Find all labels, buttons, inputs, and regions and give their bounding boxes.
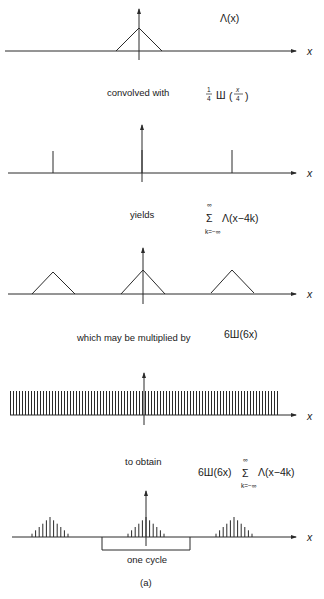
svg-text:4: 4 [207, 95, 211, 102]
triangle [211, 270, 254, 293]
panel-comb6: x [10, 373, 313, 425]
x-axis-label: x [306, 45, 313, 57]
svg-text:Λ(x−4k): Λ(x−4k) [258, 466, 294, 478]
panel-periodic-triangles: x [8, 248, 313, 304]
connector-multiplied-by: which may be multiplied by [76, 332, 191, 343]
x-axis-label: x [306, 167, 313, 179]
comb6-label: 6Ш(6x) [224, 328, 258, 340]
svg-text:Σ: Σ [206, 212, 213, 224]
connector-convolved-with: convolved with [107, 87, 169, 98]
svg-text:Σ: Σ [242, 467, 249, 479]
one-cycle-label: one cycle [127, 554, 167, 565]
sha-symbol: Ш [216, 89, 226, 101]
connector-to-obtain: to obtain [125, 456, 161, 467]
triangle-label: Λ(x) [220, 12, 239, 24]
svg-text:1: 1 [207, 86, 211, 93]
x-axis-label: x [306, 288, 313, 300]
svg-text:4: 4 [236, 95, 240, 102]
svg-text:Λ(x−4k): Λ(x−4k) [222, 212, 258, 224]
svg-text:): ) [245, 90, 249, 102]
svg-text:∞: ∞ [207, 201, 212, 208]
svg-text:∞: ∞ [243, 456, 248, 463]
panel-sampled: one cycle x [12, 491, 313, 565]
svg-text:x: x [235, 86, 240, 93]
svg-text:(: ( [229, 90, 233, 102]
connector-yields: yields [130, 209, 155, 220]
svg-text:6Ш(6x): 6Ш(6x) [198, 466, 232, 478]
panel-triangle: x Λ(x) [5, 9, 313, 60]
convolution-sampling-diagram: x Λ(x) convolved with 1 4 Ш ( x 4 ) x yi… [0, 0, 324, 599]
comb4-label: 1 4 Ш ( x 4 ) [206, 86, 249, 102]
panel-comb4: x [8, 125, 313, 182]
triangle [32, 272, 75, 294]
figure-caption: (a) [140, 577, 152, 588]
x-axis-label: x [306, 531, 313, 543]
sampled-triangles [32, 517, 252, 537]
product-label: 6Ш(6x) ∞ Σ k=−∞ Λ(x−4k) [198, 456, 294, 489]
svg-text:k=−∞: k=−∞ [205, 228, 221, 235]
x-axis-label: x [306, 410, 313, 422]
periodic-sum-label: ∞ Σ k=−∞ Λ(x−4k) [205, 201, 258, 235]
svg-text:k=−∞: k=−∞ [241, 482, 257, 489]
